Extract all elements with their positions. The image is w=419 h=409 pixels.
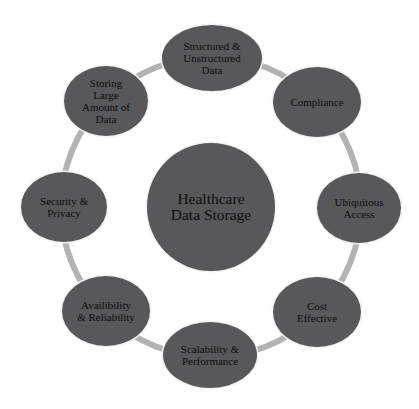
node-label: Availibility & Reliability: [77, 299, 135, 323]
node-structured-unstructured-data: Structured & Unstructured Data: [162, 25, 262, 91]
node-storing-large-data: Storing Large Amount of Data: [64, 66, 148, 136]
diagram-canvas: Healthcare Data Storage Structured & Uns…: [0, 0, 419, 409]
node-compliance: Compliance: [273, 67, 361, 137]
node-label: Security & Privacy: [40, 195, 88, 219]
hub-label: Healthcare Data Storage: [171, 191, 251, 223]
node-label: Storing Large Amount of Data: [82, 77, 130, 125]
node-security-privacy: Security & Privacy: [21, 172, 107, 242]
node-label: Scalability & Performance: [181, 343, 239, 367]
hub-healthcare-data-storage: Healthcare Data Storage: [147, 143, 275, 271]
node-label: Ubiquitous Access: [335, 196, 384, 220]
node-label: Compliance: [290, 96, 343, 108]
node-ubiquitous-access: Ubiquitous Access: [317, 173, 401, 243]
node-availability-reliability: Availibility & Reliability: [62, 276, 150, 346]
node-label: Cost Effective: [297, 300, 337, 324]
node-scalability-performance: Scalability & Performance: [163, 322, 257, 388]
node-cost-effective: Cost Effective: [273, 277, 361, 347]
node-label: Structured & Unstructured Data: [183, 40, 240, 76]
